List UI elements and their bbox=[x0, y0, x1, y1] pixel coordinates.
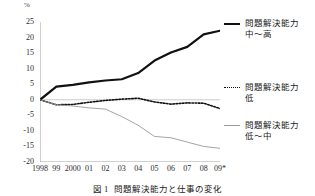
x-axis-tick-9: 07 bbox=[183, 165, 191, 173]
series-line-0 bbox=[40, 31, 220, 100]
caption-number: 図 1 bbox=[93, 184, 108, 194]
y-axis-tick-0: 25 bbox=[8, 18, 34, 26]
x-axis-tick-7: 05 bbox=[151, 165, 159, 173]
legend-label-line1-1: 問題解決能力 bbox=[245, 82, 299, 92]
legend-label-line2-2: 低〜中 bbox=[245, 131, 299, 142]
x-axis-tick-3: 01 bbox=[85, 165, 93, 173]
y-axis-tick-2: 15 bbox=[8, 49, 34, 57]
y-axis-unit-label: % bbox=[24, 1, 30, 9]
x-axis-tick-10: 08 bbox=[200, 165, 208, 173]
x-axis-tick-1: 99 bbox=[52, 165, 60, 173]
chart-svg bbox=[40, 22, 220, 162]
series-line-2 bbox=[40, 100, 220, 149]
y-axis-tick-4: 5 bbox=[8, 80, 34, 88]
legend-label-line1-0: 問題解決能力 bbox=[245, 18, 299, 28]
x-axis-tick-6: 04 bbox=[134, 165, 142, 173]
caption-title: 問題解決能力と仕事の変化 bbox=[114, 184, 222, 194]
x-axis-tick-11: 09* bbox=[214, 165, 226, 173]
y-axis-tick-1: 20 bbox=[8, 34, 34, 42]
legend-label-0: 問題解決能力中〜高 bbox=[245, 18, 299, 39]
y-axis-tick-8: -15 bbox=[8, 142, 34, 150]
legend-swatch-0 bbox=[224, 23, 240, 25]
x-axis-tick-2: 2000 bbox=[65, 165, 81, 173]
legend-label-1: 問題解決能力低 bbox=[245, 82, 299, 103]
y-axis-tick-9: -20 bbox=[8, 158, 34, 166]
y-axis-tick-5: 0 bbox=[8, 96, 34, 104]
y-axis-tick-7: -10 bbox=[8, 127, 34, 135]
legend-swatch-2 bbox=[224, 125, 240, 126]
x-axis-tick-8: 06 bbox=[167, 165, 175, 173]
legend-label-line2-1: 低 bbox=[245, 93, 299, 104]
data-series bbox=[40, 31, 220, 149]
y-axis-tick-6: -5 bbox=[8, 111, 34, 119]
legend-swatch-1 bbox=[224, 87, 240, 88]
legend-label-line1-2: 問題解決能力 bbox=[245, 120, 299, 130]
x-axis-tick-4: 02 bbox=[101, 165, 109, 173]
y-axis-tick-3: 10 bbox=[8, 65, 34, 73]
legend-label-2: 問題解決能力低〜中 bbox=[245, 120, 299, 141]
x-axis-tick-5: 03 bbox=[118, 165, 126, 173]
legend-label-line2-0: 中〜高 bbox=[245, 29, 299, 40]
x-axis-tick-0: 1998 bbox=[32, 165, 48, 173]
figure-problem-solving-skills: % 2520151050-5-10-15-20 1998992000010203… bbox=[0, 0, 315, 196]
figure-caption: 図 1問題解決能力と仕事の変化 bbox=[0, 182, 315, 194]
plot-area bbox=[40, 22, 220, 162]
